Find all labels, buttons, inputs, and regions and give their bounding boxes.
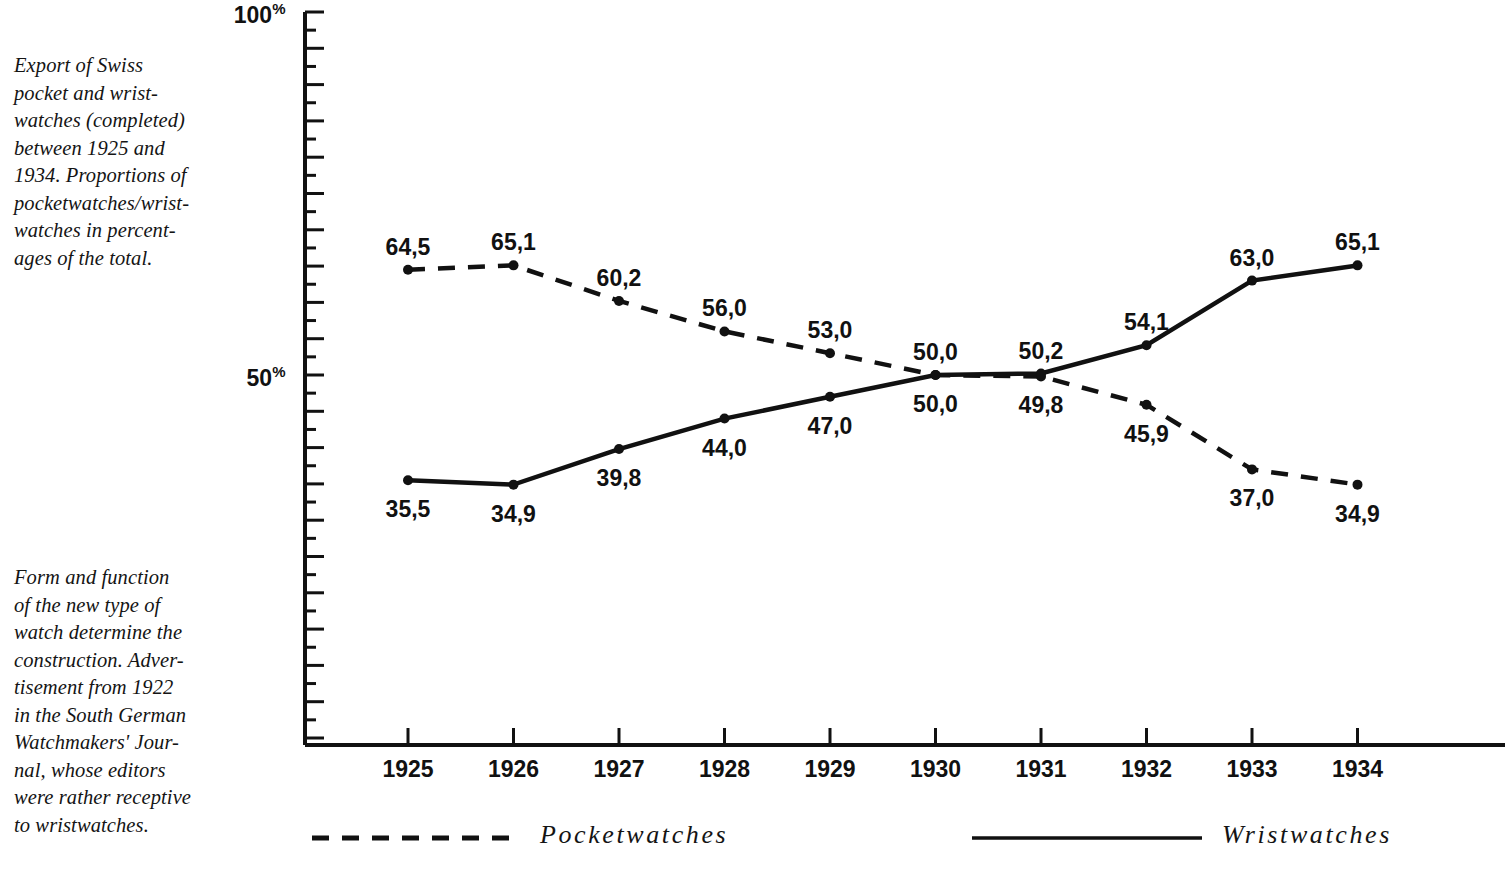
value-label-wristwatches-1925: 35,5 [363,496,453,523]
data-point-marker [1353,480,1363,490]
value-label-pocketwatches-1929: 53,0 [785,317,875,344]
value-label-pocketwatches-1928: 56,0 [680,295,770,322]
value-label-pocketwatches-1925: 64,5 [363,234,453,261]
value-label-wristwatches-1926: 34,9 [469,501,559,528]
data-point-marker [509,260,519,270]
data-point-marker [720,414,730,424]
value-label-wristwatches-1930: 50,0 [891,391,981,418]
data-point-marker [720,326,730,336]
x-axis-label-1934: 1934 [1303,756,1413,783]
y-axis-ticks [305,12,324,738]
data-point-marker [1353,260,1363,270]
data-point-marker [614,296,624,306]
value-label-pocketwatches-1934: 34,9 [1313,501,1403,528]
value-label-wristwatches-1934: 65,1 [1313,229,1403,256]
data-point-marker [825,348,835,358]
legend-label-pocketwatches: Pocketwatches [540,820,728,850]
x-axis-label-1925: 1925 [353,756,463,783]
data-point-marker [825,392,835,402]
chart-axes [305,12,1505,745]
value-label-pocketwatches-1927: 60,2 [574,265,664,292]
y-axis-label-50: 50% [160,363,285,392]
legend-label-wristwatches: Wristwatches [1222,820,1392,850]
x-axis-label-1927: 1927 [564,756,674,783]
value-label-wristwatches-1932: 54,1 [1102,309,1192,336]
value-label-wristwatches-1931: 50,2 [996,338,1086,365]
value-label-wristwatches-1928: 44,0 [680,435,770,462]
wristwatches-markers [403,260,1363,489]
data-point-marker [931,370,941,380]
data-point-marker [614,444,624,454]
data-point-marker [1247,276,1257,286]
y-axis-label-100: 100% [160,0,285,29]
data-point-marker [1036,369,1046,379]
wristwatches-line [408,265,1358,484]
value-label-wristwatches-1927: 39,8 [574,465,664,492]
pocketwatches-markers [403,260,1363,489]
value-label-pocketwatches-1932: 45,9 [1102,421,1192,448]
value-label-wristwatches-1933: 63,0 [1207,245,1297,272]
value-label-pocketwatches-1930: 50,0 [891,339,981,366]
x-axis-label-1929: 1929 [775,756,885,783]
pocketwatches-line [408,265,1358,484]
data-point-marker [509,480,519,490]
x-axis-label-1926: 1926 [459,756,569,783]
value-label-pocketwatches-1926: 65,1 [469,229,559,256]
data-point-marker [1247,464,1257,474]
x-axis-label-1932: 1932 [1092,756,1202,783]
data-point-marker [403,475,413,485]
data-point-marker [1142,340,1152,350]
data-point-marker [1142,400,1152,410]
value-label-pocketwatches-1931: 49,8 [996,392,1086,419]
value-label-wristwatches-1929: 47,0 [785,413,875,440]
x-axis-label-1931: 1931 [986,756,1096,783]
x-axis-label-1928: 1928 [670,756,780,783]
x-axis-label-1930: 1930 [881,756,991,783]
x-axis-label-1933: 1933 [1197,756,1307,783]
value-label-pocketwatches-1933: 37,0 [1207,485,1297,512]
data-point-marker [403,265,413,275]
x-axis-ticks [408,728,1358,745]
